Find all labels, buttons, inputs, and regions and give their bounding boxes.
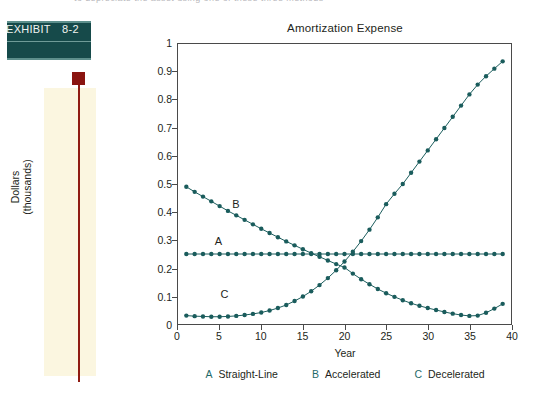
- curve-label-c: C: [221, 288, 229, 300]
- data-point: [267, 231, 271, 235]
- x-tick-label: 5: [204, 330, 234, 342]
- data-point: [484, 311, 488, 315]
- y-axis-tick-labels: 00.10.20.30.40.50.60.70.80.91: [140, 36, 172, 332]
- data-point: [384, 291, 388, 295]
- exhibit-page: to depreciate the asset using one of the…: [0, 0, 533, 412]
- data-point: [342, 259, 346, 263]
- series-a: [184, 252, 505, 256]
- data-point: [459, 313, 463, 317]
- data-point: [384, 252, 388, 256]
- data-point: [492, 66, 496, 70]
- legend-label: Decelerated: [428, 368, 485, 380]
- data-point: [392, 192, 396, 196]
- data-point: [434, 252, 438, 256]
- data-point: [284, 303, 288, 307]
- x-tick-mark: [428, 325, 429, 330]
- data-point: [417, 252, 421, 256]
- data-point: [242, 313, 246, 317]
- y-tick-label: 0.3: [140, 235, 172, 246]
- y-tick-mark: [172, 128, 177, 129]
- x-tick-mark: [512, 325, 513, 330]
- data-point: [276, 252, 280, 256]
- data-point: [359, 252, 363, 256]
- data-point: [459, 103, 463, 107]
- data-point: [492, 252, 496, 256]
- x-tick-mark: [177, 325, 178, 330]
- legend-item-c: CDecelerated: [414, 368, 484, 380]
- data-point: [467, 92, 471, 96]
- data-point: [442, 126, 446, 130]
- data-point: [467, 314, 471, 318]
- data-point: [334, 262, 338, 266]
- data-point: [367, 282, 371, 286]
- data-point: [309, 289, 313, 293]
- y-tick-mark: [172, 71, 177, 72]
- data-point: [301, 252, 305, 256]
- legend-label: Straight-Line: [218, 368, 278, 380]
- data-point: [217, 204, 221, 208]
- x-tick-mark: [386, 325, 387, 330]
- data-point: [359, 239, 363, 243]
- y-tick-mark: [172, 269, 177, 270]
- data-point: [201, 314, 205, 318]
- data-point: [417, 159, 421, 163]
- data-point: [409, 301, 413, 305]
- data-point: [301, 247, 305, 251]
- x-tick-mark: [345, 325, 346, 330]
- x-tick-mark: [261, 325, 262, 330]
- x-tick-label: 20: [330, 330, 360, 342]
- x-axis-title: Year: [178, 347, 512, 359]
- x-tick-label: 40: [497, 330, 527, 342]
- data-point: [259, 252, 263, 256]
- data-point: [500, 302, 504, 306]
- data-point: [401, 298, 405, 302]
- data-point: [392, 252, 396, 256]
- curve-label-b: B: [232, 198, 239, 210]
- data-point: [326, 252, 330, 256]
- data-point: [326, 258, 330, 262]
- data-point: [334, 252, 338, 256]
- data-point: [342, 252, 346, 256]
- legend-item-b: BAccelerated: [312, 368, 380, 380]
- series-c: [184, 59, 505, 319]
- legend-label: Accelerated: [325, 368, 380, 380]
- data-point: [226, 209, 230, 213]
- data-point: [317, 283, 321, 287]
- data-point: [292, 252, 296, 256]
- y-tick-label: 0.4: [140, 207, 172, 218]
- data-point: [184, 252, 188, 256]
- red-square-marker: [72, 72, 85, 85]
- data-point: [276, 235, 280, 239]
- plot-area: [177, 43, 512, 325]
- y-tick-label: 0.2: [140, 264, 172, 275]
- data-point: [184, 185, 188, 189]
- data-point: [192, 252, 196, 256]
- data-point: [392, 295, 396, 299]
- data-point: [201, 252, 205, 256]
- data-point: [251, 222, 255, 226]
- y-tick-label: 0.7: [140, 123, 172, 134]
- y-tick-label: 0.9: [140, 66, 172, 77]
- data-point: [276, 306, 280, 310]
- y-axis-title-line2: (thousands): [21, 139, 33, 235]
- data-point: [242, 252, 246, 256]
- chart-legend: AStraight-LineBAcceleratedCDecelerated: [178, 368, 512, 380]
- data-point: [467, 252, 471, 256]
- data-point: [409, 252, 413, 256]
- data-point: [434, 308, 438, 312]
- y-tick-label: 0: [140, 320, 172, 331]
- data-point: [500, 252, 504, 256]
- data-point: [192, 190, 196, 194]
- x-tick-label: 30: [413, 330, 443, 342]
- data-point: [476, 252, 480, 256]
- data-point: [484, 74, 488, 78]
- data-point: [309, 251, 313, 255]
- data-point: [192, 314, 196, 318]
- data-point: [451, 252, 455, 256]
- data-point: [367, 252, 371, 256]
- y-tick-mark: [172, 99, 177, 100]
- data-point: [184, 313, 188, 317]
- data-point: [209, 252, 213, 256]
- x-tick-label: 35: [455, 330, 485, 342]
- data-point: [484, 252, 488, 256]
